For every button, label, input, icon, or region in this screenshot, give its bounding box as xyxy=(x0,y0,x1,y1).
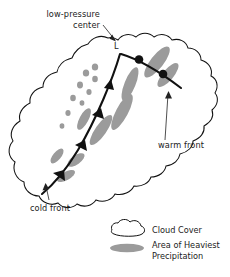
warm-front-label: warm front xyxy=(158,140,205,150)
legend-label-cloud-cover: Cloud Cover xyxy=(152,225,203,235)
precip-dot xyxy=(92,76,98,82)
low-pressure-symbol-text: L xyxy=(114,41,119,51)
precip-dot xyxy=(65,110,70,116)
legend-label-precipitation-line2: Precipitation xyxy=(152,251,203,261)
legend-item-cloud-cover: Cloud Cover xyxy=(111,219,202,236)
cloud-icon xyxy=(111,219,144,236)
cloud-outline-swatch xyxy=(111,219,144,236)
legend: Cloud Cover Area of Heaviest Precipitati… xyxy=(110,219,221,261)
cold-front-label: cold front xyxy=(30,203,71,213)
precip-dot xyxy=(83,69,89,76)
precip-dot xyxy=(80,100,85,106)
weather-diagram: L low-pressure center warm front cold fr… xyxy=(0,0,230,277)
precip-dot xyxy=(77,82,83,89)
precip-dot xyxy=(92,63,98,70)
gray-blob-swatch xyxy=(110,244,144,253)
precip-dot xyxy=(86,89,91,95)
low-pressure-label-line2: center xyxy=(73,20,100,30)
diagram-canvas: L low-pressure center warm front cold fr… xyxy=(0,0,230,277)
legend-item-precipitation: Area of Heaviest Precipitation xyxy=(110,240,221,261)
precip-dot xyxy=(60,123,65,129)
legend-label-precipitation-line1: Area of Heaviest xyxy=(152,240,221,250)
warm-front-bump xyxy=(159,70,168,79)
low-pressure-label-line1: low-pressure xyxy=(47,9,101,19)
precip-dot xyxy=(70,95,76,101)
warm-front-bump xyxy=(135,55,144,64)
low-pressure-L-symbol: L xyxy=(114,41,119,51)
